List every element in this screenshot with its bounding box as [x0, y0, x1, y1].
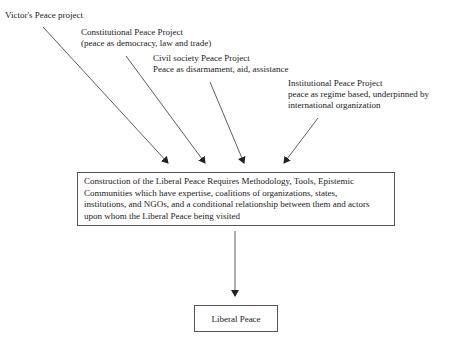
source-title: Civil society Peace Project — [153, 53, 288, 64]
source-description: Peace as disarmament, aid, assistance — [153, 64, 288, 75]
liberal-peace-label: Liberal Peace — [211, 314, 260, 324]
source-description: international organization — [288, 100, 429, 111]
source-title: Constitutional Peace Project — [81, 27, 211, 38]
arrow-institutional-to-construction — [284, 118, 318, 163]
source-victors-peace: Victor's Peace project — [5, 10, 83, 21]
liberal-peace-box: Liberal Peace — [194, 305, 278, 332]
source-civil-society-peace: Civil society Peace Project Peace as dis… — [153, 53, 288, 75]
arrow-civil-to-construction — [210, 82, 244, 163]
source-description: (peace as democracy, law and trade) — [81, 38, 211, 49]
construction-text-line: Construction of the Liberal Peace Requir… — [84, 176, 388, 188]
source-constitutional-peace: Constitutional Peace Project (peace as d… — [81, 27, 211, 49]
construction-box: Construction of the Liberal Peace Requir… — [77, 172, 395, 226]
source-institutional-peace: Institutional Peace Project peace as reg… — [288, 78, 429, 111]
source-title: Victor's Peace project — [5, 10, 83, 21]
construction-text-line: institutions, and NGOs, and a conditiona… — [84, 199, 388, 211]
construction-text-line: Communities which have expertise, coalit… — [84, 188, 388, 200]
construction-text-line: upon whom the Liberal Peace being visite… — [84, 211, 388, 223]
source-title: Institutional Peace Project — [288, 78, 429, 89]
source-description: peace as regime based, underpinned by — [288, 89, 429, 100]
